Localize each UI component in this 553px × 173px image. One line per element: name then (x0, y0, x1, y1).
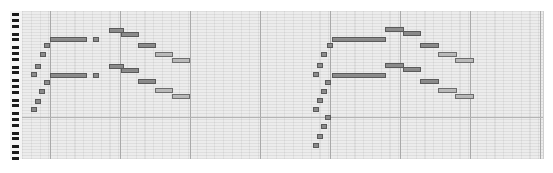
bar-line (470, 11, 471, 159)
black-key[interactable] (12, 157, 19, 160)
midi-note[interactable] (44, 43, 50, 48)
midi-note[interactable] (420, 79, 439, 84)
black-key[interactable] (12, 137, 19, 140)
midi-note[interactable] (455, 58, 474, 63)
black-key[interactable] (12, 79, 19, 82)
bar-line (50, 11, 51, 159)
midi-note[interactable] (317, 134, 323, 139)
midi-note[interactable] (385, 27, 404, 32)
midi-note[interactable] (93, 37, 99, 42)
black-key[interactable] (12, 46, 19, 49)
note-grid[interactable] (22, 11, 544, 159)
bar-line (540, 11, 541, 159)
midi-note[interactable] (403, 31, 421, 36)
midi-note[interactable] (332, 37, 386, 42)
black-key[interactable] (12, 25, 19, 28)
midi-note[interactable] (40, 52, 46, 57)
midi-note[interactable] (385, 63, 404, 68)
midi-note[interactable] (455, 94, 474, 99)
midi-note[interactable] (172, 58, 190, 63)
bar-line (330, 11, 331, 159)
octave-line (22, 117, 543, 118)
midi-note[interactable] (313, 107, 319, 112)
black-key[interactable] (12, 112, 19, 115)
midi-note[interactable] (31, 72, 37, 77)
midi-note[interactable] (321, 89, 327, 94)
midi-note[interactable] (93, 73, 99, 78)
black-key[interactable] (12, 38, 19, 41)
black-key[interactable] (12, 118, 19, 121)
midi-note[interactable] (138, 79, 156, 84)
midi-note[interactable] (50, 37, 87, 42)
midi-note[interactable] (155, 88, 173, 93)
midi-note[interactable] (438, 88, 457, 93)
black-key[interactable] (12, 85, 19, 88)
bar-line (190, 11, 191, 159)
piano-roll-editor[interactable] (0, 0, 553, 173)
midi-note[interactable] (155, 52, 173, 57)
black-key[interactable] (12, 13, 19, 16)
midi-note[interactable] (321, 124, 327, 129)
midi-note[interactable] (313, 143, 319, 148)
black-key[interactable] (12, 71, 19, 74)
black-key[interactable] (12, 132, 19, 135)
black-key[interactable] (12, 58, 19, 61)
black-key[interactable] (12, 19, 19, 22)
midi-note[interactable] (50, 73, 87, 78)
midi-note[interactable] (327, 43, 333, 48)
piano-keyboard[interactable] (10, 11, 22, 159)
black-key[interactable] (12, 33, 19, 36)
black-key[interactable] (12, 66, 19, 69)
midi-note[interactable] (121, 32, 139, 37)
black-key[interactable] (12, 99, 19, 102)
midi-note[interactable] (313, 72, 319, 77)
bar-line (260, 11, 261, 159)
midi-note[interactable] (420, 43, 439, 48)
midi-note[interactable] (31, 107, 37, 112)
midi-note[interactable] (325, 80, 331, 85)
black-key[interactable] (12, 104, 19, 107)
black-key[interactable] (12, 124, 19, 127)
midi-note[interactable] (44, 80, 50, 85)
midi-note[interactable] (332, 73, 386, 78)
midi-note[interactable] (172, 94, 190, 99)
midi-note[interactable] (438, 52, 457, 57)
midi-note[interactable] (325, 115, 331, 120)
midi-note[interactable] (403, 67, 421, 72)
black-key[interactable] (12, 151, 19, 154)
midi-note[interactable] (35, 64, 41, 69)
midi-note[interactable] (35, 99, 41, 104)
black-key[interactable] (12, 145, 19, 148)
midi-note[interactable] (39, 89, 45, 94)
black-key[interactable] (12, 91, 19, 94)
black-key[interactable] (12, 52, 19, 55)
midi-note[interactable] (317, 63, 323, 68)
midi-note[interactable] (321, 52, 327, 57)
midi-note[interactable] (121, 68, 139, 73)
midi-note[interactable] (138, 43, 156, 48)
midi-note[interactable] (317, 98, 323, 103)
bar-line (400, 11, 401, 159)
